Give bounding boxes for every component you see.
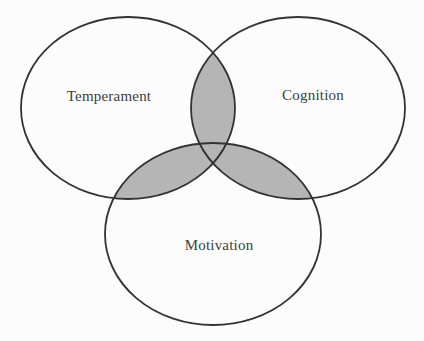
overlap-regions [21,17,405,199]
venn-diagram-canvas [0,0,424,341]
venn-diagram-figure: Temperament Cognition Motivation [0,0,424,341]
cognition-label: Cognition [282,87,344,104]
temperament-label: Temperament [67,88,151,105]
motivation-label: Motivation [185,237,254,254]
